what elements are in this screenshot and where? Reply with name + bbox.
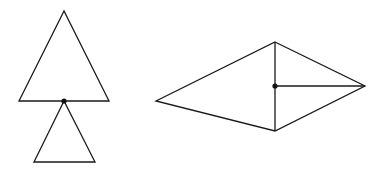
- geometry-diagram: [0, 0, 385, 171]
- small-triangle: [34, 101, 95, 162]
- triangle-pair-figure: [19, 11, 109, 162]
- shared-vertex-dot: [61, 98, 66, 103]
- kite-center-dot: [272, 83, 277, 88]
- kite-figure: [156, 42, 365, 131]
- large-triangle: [19, 11, 109, 101]
